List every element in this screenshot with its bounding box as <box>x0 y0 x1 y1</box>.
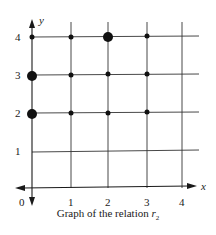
y-tick-4: 4 <box>15 31 21 43</box>
grid-line-y4 <box>32 36 199 37</box>
relation-graph: y x 0 1 2 3 4 1 2 3 4 <box>0 0 216 235</box>
y-tick-3: 3 <box>15 69 21 81</box>
grid-line-y2 <box>32 112 199 113</box>
caption-text: Graph of the relation <box>57 207 149 219</box>
point-3-4 <box>145 34 150 39</box>
point-2-3 <box>106 72 111 77</box>
figure-caption: Graph of the relation r2 <box>0 207 216 222</box>
point-3-2 <box>145 110 150 115</box>
large-point-2-4 <box>103 32 113 42</box>
tick-labels: 0 1 2 3 4 1 2 3 4 <box>15 31 185 208</box>
y-tick-2: 2 <box>15 107 21 119</box>
x-axis-label: x <box>200 180 206 192</box>
y-tick-1: 1 <box>15 145 21 157</box>
arrow-down-icon <box>29 197 35 206</box>
large-point-0-3 <box>27 71 37 81</box>
point-1-2 <box>69 111 74 116</box>
arrow-up-icon <box>29 19 35 28</box>
x-axis: x <box>15 180 206 192</box>
vertical-grid-lines <box>71 22 182 188</box>
point-1-3 <box>69 73 74 78</box>
large-point-0-2 <box>27 109 37 119</box>
caption-subscript: 2 <box>156 214 160 222</box>
arrow-right-icon <box>187 183 197 189</box>
point-0-4 <box>30 35 35 40</box>
grid-line-y3 <box>32 74 199 75</box>
point-3-3 <box>145 72 150 77</box>
point-1-4 <box>69 35 74 40</box>
horizontal-grid-lines <box>32 36 199 152</box>
arrow-left-icon <box>15 185 25 191</box>
point-2-2 <box>106 111 111 116</box>
y-axis-label: y <box>38 14 44 26</box>
grid-line-y1 <box>32 150 199 152</box>
